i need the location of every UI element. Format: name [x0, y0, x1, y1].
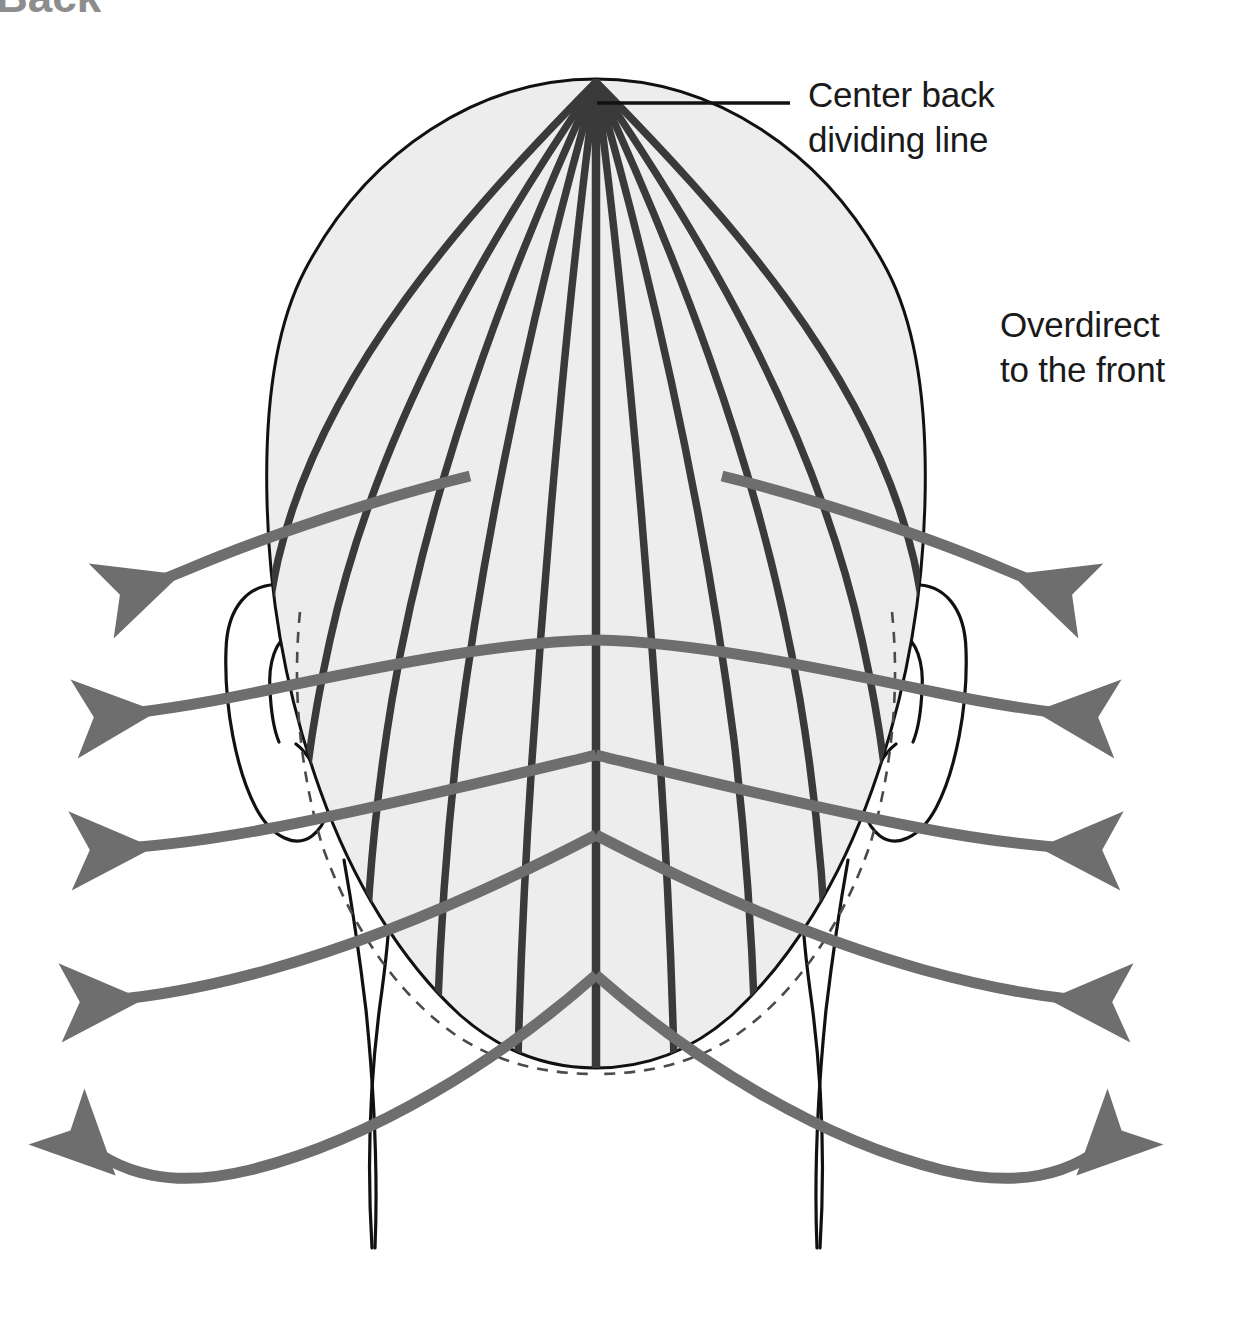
overdirect-label-line2: to the front — [1000, 350, 1165, 389]
cut-off-title-text: Back — [0, 0, 102, 21]
overdirect-label-line1: Overdirect — [1000, 305, 1160, 344]
hair-sectioning-diagram: Back — [0, 0, 1242, 1320]
center-back-label-line2: dividing line — [808, 120, 988, 159]
cut-off-title-fragment: Back — [0, 0, 102, 21]
head-diagram-svg: Back — [0, 0, 1242, 1320]
center-back-label-line1: Center back — [808, 75, 995, 114]
